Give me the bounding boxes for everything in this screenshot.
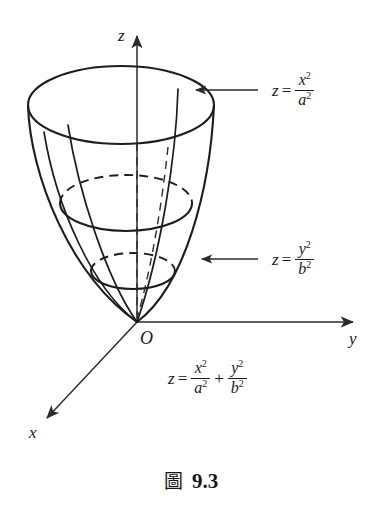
y-axis-label: y [349, 330, 357, 347]
surface-eq-plus: + [214, 370, 224, 387]
figure-container: z y x O z = x2 a2 z = y2 b2 z = x2 a2 + [0, 0, 382, 511]
origin-label: O [140, 329, 153, 347]
trace-yz-lhs: z [272, 251, 279, 268]
paraboloid-diagram [0, 0, 382, 511]
trace-xz-label: z = x2 a2 [272, 72, 315, 109]
term1-denominator: a2 [191, 380, 210, 397]
trace-xz-denominator: a2 [295, 92, 314, 109]
figure-caption: 圖9.3 [0, 466, 382, 494]
caption-figure-mark: 圖 [164, 471, 183, 492]
z-axis-label: z [118, 27, 125, 44]
paraboloid-surface [28, 66, 214, 322]
trace-xz-lhs: z [272, 82, 279, 99]
trace-xz-fraction: x2 a2 [295, 72, 314, 109]
trace-yz-equals: = [282, 251, 292, 268]
surface-equation: z = x2 a2 + y2 b2 [168, 360, 248, 397]
surface-eq-equals: = [178, 370, 188, 387]
x-axis-label: x [29, 424, 37, 441]
top-rim-ellipse [28, 66, 214, 144]
trace-yz-denominator: b2 [295, 261, 314, 278]
surface-eq-term1: x2 a2 [191, 360, 210, 397]
trace-yz-fraction: y2 b2 [295, 241, 314, 278]
trace-xz-equals: = [282, 82, 292, 99]
caption-figure-number: 9.3 [192, 469, 218, 493]
surface-eq-lhs: z [168, 370, 175, 387]
trace-yz-numerator: y2 [296, 241, 314, 258]
x-axis [47, 322, 137, 418]
mid-ellipse-front [60, 203, 192, 231]
surface-eq-term2: y2 b2 [228, 360, 247, 397]
trace-yz-label: z = y2 b2 [272, 241, 315, 278]
term1-numerator: x2 [192, 360, 210, 377]
trace-xz-numerator: x2 [296, 72, 314, 89]
term2-denominator: b2 [228, 380, 247, 397]
term2-numerator: y2 [228, 360, 246, 377]
meridian-front-right [137, 89, 178, 322]
